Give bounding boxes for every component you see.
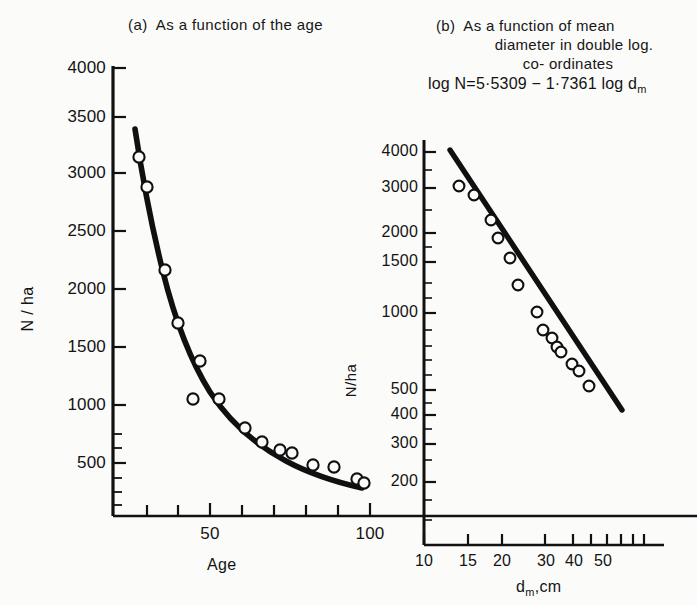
data-point (538, 325, 549, 336)
data-point (286, 447, 297, 458)
panel-b-x-axis-title: dm,cm (516, 578, 561, 598)
data-point (454, 181, 465, 192)
data-point (194, 355, 205, 366)
data-point (469, 190, 480, 201)
data-point (274, 444, 285, 455)
panel-b-y-axis-title: N/ha (342, 349, 359, 413)
panel-b-xtick-15: 15 (450, 552, 486, 570)
plot-canvas (0, 0, 697, 605)
panel-b-x-axis-title-d: d (516, 578, 525, 595)
panel-b-data-points (454, 181, 595, 392)
data-point (256, 436, 267, 447)
data-point (556, 347, 567, 358)
panel-b-y-ticks (424, 152, 436, 482)
data-point (584, 381, 595, 392)
panel-a-x-ticks (147, 503, 370, 516)
figure-container: (a) As a function of the age (b) As a fu… (0, 0, 697, 605)
data-point (307, 459, 318, 470)
data-point (141, 181, 152, 192)
panel-a-x-axis-title: Age (207, 556, 236, 574)
panel-b-ytick-2000: 2000 (352, 223, 418, 241)
data-point (328, 461, 339, 472)
panel-a-ytick-3000: 3000 (30, 163, 106, 183)
panel-a-ytick-1500: 1500 (30, 337, 106, 357)
panel-a-ytick-500: 500 (30, 453, 106, 473)
panel-a-xtick-50: 50 (185, 524, 235, 544)
panel-b-x-ticks (424, 534, 644, 545)
panel-b-ytick-1500: 1500 (352, 252, 418, 270)
data-point (159, 264, 170, 275)
panel-a-fit-curve (135, 129, 362, 488)
data-point (187, 393, 198, 404)
panel-a-ytick-4000: 4000 (30, 58, 106, 78)
panel-b-axes (424, 140, 664, 545)
data-point (493, 233, 504, 244)
panel-b-ytick-1000: 1000 (352, 303, 418, 321)
panel-a-ytick-2000: 2000 (30, 279, 106, 299)
panel-a-ytick-3500: 3500 (30, 107, 106, 127)
panel-b-x-axis-title-rest: ,cm (535, 578, 562, 595)
panel-b-ytick-300: 300 (352, 434, 418, 452)
panel-b-xtick-10: 10 (406, 552, 442, 570)
data-point (513, 280, 524, 291)
data-point (133, 151, 144, 162)
panel-a-ytick-2500: 2500 (30, 221, 106, 241)
data-point (486, 215, 497, 226)
data-point (172, 317, 183, 328)
panel-b-ytick-200: 200 (352, 472, 418, 490)
panel-a-ytick-1000: 1000 (30, 395, 106, 415)
panel-b-ytick-3000: 3000 (352, 178, 418, 196)
data-point (213, 393, 224, 404)
panel-b-ytick-4000: 4000 (352, 142, 418, 160)
panel-b-ytick-500: 500 (352, 380, 418, 398)
data-point (239, 422, 250, 433)
panel-b-ytick-400: 400 (352, 405, 418, 423)
panel-b-x-axis-title-sub: m (525, 586, 534, 598)
panel-b-xtick-20: 20 (484, 552, 520, 570)
data-point (505, 253, 516, 264)
data-point (532, 307, 543, 318)
panel-a-y-axis-title: N / ha (19, 278, 37, 340)
panel-a-y-ticks (113, 68, 126, 463)
panel-a-xtick-100: 100 (337, 524, 403, 544)
data-point (574, 366, 585, 377)
panel-b-xtick-50: 50 (585, 552, 621, 570)
